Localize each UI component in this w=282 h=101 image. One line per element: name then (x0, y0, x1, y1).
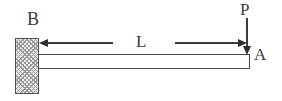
label-fixed-end-B: B (27, 10, 39, 28)
beam (38, 54, 250, 69)
label-span-length-L: L (136, 33, 146, 50)
cantilever-beam-diagram: B L P A (0, 0, 282, 101)
dimension-line-right-segment (175, 42, 239, 44)
force-arrowhead-down-icon (243, 46, 251, 55)
label-point-load-P: P (240, 1, 249, 18)
force-arrow-shaft (246, 18, 248, 47)
fixed-support-wall (15, 38, 39, 94)
label-free-end-A: A (254, 46, 266, 63)
dimension-line-left-segment (47, 42, 113, 44)
